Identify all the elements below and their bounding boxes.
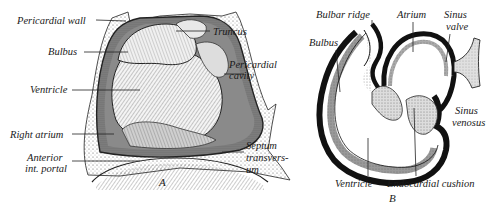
label-sinus-venosus-line2: venosus (452, 117, 485, 128)
caption-a: A (159, 176, 166, 188)
label-sinus-venosus-line1: Sinus (455, 105, 478, 116)
label-atrium: Atrium (397, 9, 426, 20)
label-septum-line2: transvers- (246, 152, 289, 163)
label-endocardial-cushion: Endocardial cushion (387, 178, 474, 189)
label-ventricle-b: Ventricle (335, 178, 372, 189)
label-pericardial-wall: Pericardial wall (17, 15, 86, 26)
embryonic-heart-figure: Pericardial wall Bulbus Ventricle Right … (0, 0, 493, 206)
label-pericardial-cavity-line1: Pericardial (229, 59, 277, 70)
label-bulbus-a: Bulbus (48, 46, 77, 57)
label-truncus: Truncus (213, 26, 247, 37)
label-bulbus-b: Bulbus (309, 37, 338, 48)
label-sinus-valve-line1: Sinus (444, 9, 467, 20)
label-bulbar-ridge: Bulbar ridge (316, 9, 370, 20)
label-anterior-portal-line2: int. portal (25, 163, 67, 174)
label-ventricle-a: Ventricle (30, 84, 67, 95)
label-septum-line3: um (246, 164, 259, 175)
label-anterior-portal-line1: Anterior (27, 152, 63, 163)
label-sinus-valve-line2: valve (446, 21, 468, 32)
label-septum-line1: Septum (246, 140, 277, 151)
label-right-atrium: Right atrium (10, 129, 63, 140)
label-pericardial-cavity-line2: cavity (229, 70, 254, 81)
caption-b: B (389, 192, 396, 204)
